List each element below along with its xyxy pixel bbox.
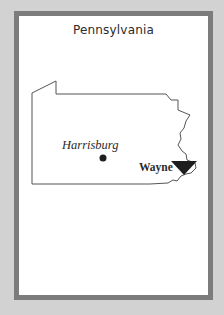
harrisburg-marker-dot [100,155,107,162]
harrisburg-label: Harrisburg [61,138,119,152]
wayne-label: Wayne [139,161,173,174]
wayne-triangle-icon [171,161,197,175]
state-map: Harrisburg Wayne [0,0,224,315]
